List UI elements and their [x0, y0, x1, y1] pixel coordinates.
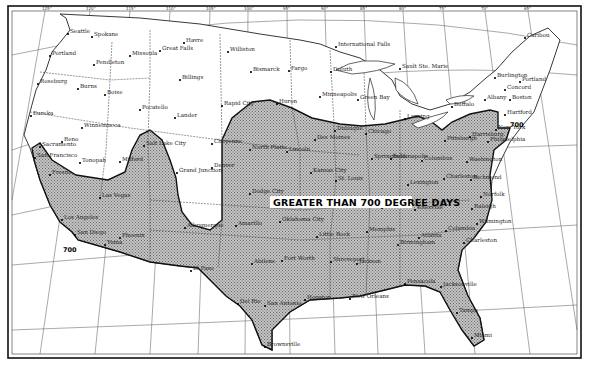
- city-name: Bismarck: [253, 66, 280, 72]
- svg-text:70°: 70°: [481, 6, 488, 11]
- city-name: North Platte: [252, 144, 288, 150]
- city-name: St. Louis: [338, 175, 363, 181]
- city-marker-icon: [494, 77, 496, 79]
- city-marker-icon: [99, 197, 101, 199]
- city-name: Des Moines: [317, 134, 350, 140]
- svg-text:105°: 105°: [206, 6, 216, 11]
- city-marker-icon: [119, 237, 121, 239]
- city-name: Jackson: [358, 258, 381, 265]
- city-name: Philadelphia: [490, 136, 526, 143]
- city-marker-icon: [79, 162, 81, 164]
- city-name: Atlanta: [420, 232, 442, 238]
- city-marker-icon: [421, 160, 423, 162]
- map-canvas: 125° 120° 115° 110° 105° 100° 95° 90° 85…: [0, 0, 589, 365]
- city-name: Las Vegas: [102, 192, 130, 199]
- city-marker-icon: [49, 174, 51, 176]
- city-name: Miami: [474, 332, 492, 338]
- city-name: Hartford: [507, 109, 532, 115]
- city-name: Havre: [186, 37, 204, 43]
- city-name: Missoula: [132, 50, 158, 56]
- city-name: Spokane: [94, 31, 119, 38]
- city-marker-icon: [404, 118, 406, 120]
- city-name: Birmingham: [400, 239, 436, 246]
- city-name: Portland: [522, 76, 547, 82]
- city-marker-icon: [470, 179, 472, 181]
- city-name: Phoenix: [122, 232, 145, 238]
- city-marker-icon: [316, 236, 318, 238]
- city-name: San Diego: [77, 229, 107, 236]
- city-name: El Paso: [193, 265, 214, 271]
- city-name: Columbia: [448, 225, 476, 231]
- city-marker-icon: [451, 106, 453, 108]
- city-name: Amarillo: [237, 220, 263, 226]
- city-marker-icon: [179, 79, 181, 81]
- city-marker-icon: [418, 237, 420, 239]
- city-marker-icon: [330, 71, 332, 73]
- city-name: New Orleans: [352, 293, 389, 299]
- city-marker-icon: [476, 223, 478, 225]
- city-marker-icon: [93, 64, 95, 66]
- city-marker-icon: [281, 260, 283, 262]
- city-marker-icon: [286, 151, 288, 153]
- city-name: Kansas City: [313, 167, 347, 174]
- city-marker-icon: [471, 208, 473, 210]
- city-marker-icon: [469, 136, 471, 138]
- city-name: Great Falls: [162, 45, 193, 51]
- city-name: Fort Worth: [284, 255, 315, 261]
- city-marker-icon: [304, 299, 306, 301]
- city-marker-icon: [444, 140, 446, 142]
- city-marker-icon: [235, 225, 237, 227]
- city-marker-icon: [129, 55, 131, 57]
- svg-text:115°: 115°: [126, 6, 136, 11]
- city-marker-icon: [314, 139, 316, 141]
- city-name: Sault Ste. Marie: [402, 63, 449, 69]
- city-marker-icon: [184, 227, 186, 229]
- city-marker-icon: [487, 141, 489, 143]
- city-name: Richmond: [473, 174, 502, 180]
- city-marker-icon: [365, 133, 367, 135]
- city-marker-icon: [190, 270, 192, 272]
- svg-text:125°: 125°: [42, 6, 52, 11]
- city-name: Milford: [122, 156, 143, 162]
- city-name: Los Angeles: [64, 214, 98, 221]
- city-marker-icon: [67, 33, 69, 35]
- city-marker-icon: [119, 161, 121, 163]
- city-name: Lansing: [407, 113, 430, 120]
- city-name: Del Rio: [240, 298, 261, 304]
- city-marker-icon: [221, 105, 223, 107]
- city-marker-icon: [74, 234, 76, 236]
- city-name: Rapid City: [224, 100, 255, 107]
- city-name: Minneapolis: [322, 91, 357, 98]
- city-marker-icon: [366, 231, 368, 233]
- city-marker-icon: [371, 158, 373, 160]
- svg-text:85°: 85°: [360, 6, 367, 11]
- city-marker-icon: [399, 68, 401, 70]
- city-marker-icon: [227, 51, 229, 53]
- degree-days-map: 125° 120° 115° 110° 105° 100° 95° 90° 85…: [0, 0, 589, 365]
- city-marker-icon: [30, 115, 32, 117]
- city-marker-icon: [211, 167, 213, 169]
- city-marker-icon: [407, 184, 409, 186]
- city-name: Sacramento: [42, 141, 77, 147]
- city-marker-icon: [264, 305, 266, 307]
- city-name: Albuquerque: [186, 222, 224, 229]
- city-name: Albany: [486, 94, 507, 101]
- city-name: Indianapolis: [393, 153, 428, 160]
- city-marker-icon: [288, 70, 290, 72]
- city-marker-icon: [91, 36, 93, 38]
- isoline-label-east: 700: [510, 121, 524, 129]
- city-marker-icon: [251, 263, 253, 265]
- city-marker-icon: [349, 298, 351, 300]
- city-name: Williston: [230, 46, 255, 52]
- city-name: Fresno: [52, 169, 72, 175]
- city-marker-icon: [443, 178, 445, 180]
- city-name: Jacksonville: [442, 281, 477, 288]
- city-marker-icon: [61, 219, 63, 221]
- city-marker-icon: [356, 263, 358, 265]
- svg-text:65°: 65°: [524, 6, 531, 11]
- city-marker-icon: [440, 286, 442, 288]
- city-name: Charleston: [466, 237, 497, 243]
- city-name: Lincoln: [289, 146, 310, 152]
- city-marker-icon: [159, 50, 161, 52]
- city-marker-icon: [49, 55, 51, 57]
